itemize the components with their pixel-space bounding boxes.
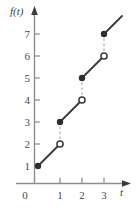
x-tick-label-3: 3 <box>97 190 111 201</box>
y-tick-label-3: 3 <box>16 117 30 128</box>
open-point-2-4 <box>79 97 85 103</box>
y-tick-label-5: 5 <box>16 73 30 84</box>
filled-endpoint-markers <box>35 31 107 169</box>
y-tick-label-6: 6 <box>16 51 30 62</box>
y-tick-label-4: 4 <box>16 95 30 106</box>
step-function-chart: f(t) t 7 6 5 4 3 2 1 0 1 2 3 <box>0 0 136 210</box>
filled-point-0-1 <box>35 163 41 169</box>
segment-1-2 <box>60 100 82 122</box>
filled-point-1-3 <box>57 119 63 125</box>
segment-3-end <box>104 16 122 34</box>
open-endpoint-markers <box>57 53 107 147</box>
x-tick-label-0: 0 <box>18 190 32 201</box>
open-point-1-2 <box>57 141 63 147</box>
y-tick-label-7: 7 <box>16 29 30 40</box>
x-axis-arrowhead <box>122 180 131 187</box>
x-axis-ticks <box>60 178 104 184</box>
x-tick-label-2: 2 <box>75 190 89 201</box>
open-point-3-6 <box>101 53 107 59</box>
x-tick-label-1: 1 <box>53 190 67 201</box>
x-axis-title: t <box>120 187 123 198</box>
filled-point-3-7 <box>101 31 107 37</box>
y-axis-arrowhead <box>31 6 38 15</box>
jump-connectors <box>60 34 104 144</box>
segment-0-1 <box>38 144 60 166</box>
curve-segments <box>38 16 122 166</box>
y-axis-ticks <box>35 34 41 166</box>
y-axis-title: f(t) <box>10 6 23 17</box>
y-tick-label-2: 2 <box>16 139 30 150</box>
filled-point-2-5 <box>79 75 85 81</box>
segment-2-3 <box>82 56 104 78</box>
y-tick-label-1: 1 <box>16 161 30 172</box>
